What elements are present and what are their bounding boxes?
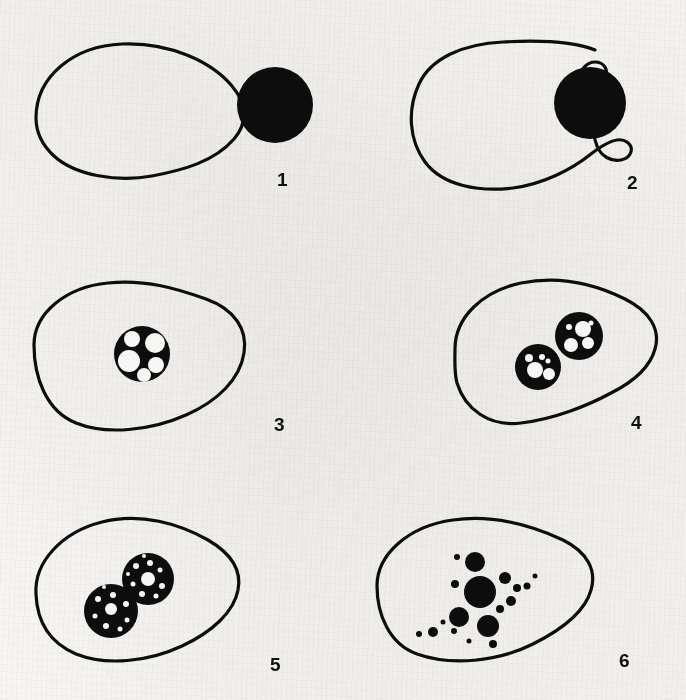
residual-granule [428,627,438,637]
vacuole-vesicle [124,331,140,347]
residual-granule [441,620,446,625]
residual-granule [464,576,496,608]
vacuole-vesicle [147,560,153,566]
vacuole-vesicle [546,359,551,364]
vacuole-vesicle [566,324,572,330]
panel-3-phagosome-formed: 3 [0,233,343,466]
vacuole-body [555,312,603,360]
phagocytosis-stages-figure: 123456 [0,0,686,700]
vacuole-vesicle [95,596,101,602]
vacuole-vesicle [148,357,164,373]
panel-drawing [0,233,343,466]
panel-4-two-phagosomes: 4 [343,233,686,466]
vacuole-vesicle [139,591,145,597]
vacuole-vesicle [564,338,578,352]
vacuole-vesicle [525,354,533,362]
food-vacuole [555,312,603,360]
vacuole-vesicle [589,321,594,326]
panel-drawing [0,0,343,233]
panel-2-pseudopodia-engulfing: 2 [343,0,686,233]
food-vacuole [84,584,138,638]
panel-6-residual-granules: 6 [343,466,686,699]
residual-granule [513,584,521,592]
residual-granule [506,596,516,606]
residual-granule [451,628,457,634]
vacuole-vesicle [539,354,545,360]
residual-granule [524,583,531,590]
vacuole-vesicle [118,627,123,632]
vacuole-vesicle [118,350,140,372]
residual-granule [465,552,485,572]
vacuole-vesicle [123,601,129,607]
panel-1-contact: 1 [0,0,343,233]
vacuole-vesicle [159,583,165,589]
panel-number-label: 2 [627,173,638,192]
residual-granule [496,605,504,613]
cell-membrane-outline [455,280,657,423]
panel-number-label: 3 [274,415,285,434]
panel-number-label: 6 [619,651,630,670]
residual-granule [489,640,497,648]
panel-number-label: 1 [277,170,288,189]
panel-number-label: 4 [631,413,642,432]
vacuole-vesicle [527,362,543,378]
panel-number-label: 5 [270,655,281,674]
residual-granule [454,554,460,560]
residual-granule [477,615,499,637]
vacuole-vesicle [105,603,117,615]
residual-granule [467,639,472,644]
vacuole-vesicle [141,572,155,586]
vacuole-vesicle [126,572,130,576]
residual-granule [499,572,511,584]
vacuole-vesicle [133,563,139,569]
panel-drawing [343,0,686,233]
food-vacuole [515,344,561,390]
vacuole-vesicle [543,368,555,380]
vacuole-vesicle [93,614,98,619]
panel-drawing [0,466,343,699]
ingested-particle [237,67,313,143]
vacuole-vesicle [582,337,594,349]
vacuole-vesicle [145,333,165,353]
panel-grid: 123456 [0,0,686,700]
vacuole-vesicle [102,585,106,589]
vacuole-vesicle [103,623,109,629]
panel-5-digestion-speckled: 5 [0,466,343,699]
vacuole-vesicle [154,594,159,599]
vacuole-vesicle [142,554,146,558]
residual-granule [416,631,422,637]
vacuole-vesicle [137,368,151,382]
vacuole-vesicle [158,568,163,573]
ingested-particle [554,67,626,139]
food-vacuole [114,326,170,382]
vacuole-vesicle [131,582,136,587]
cell-membrane-outline [36,44,244,178]
vacuole-vesicle [125,618,130,623]
residual-granule [533,574,538,579]
residual-granule [451,580,459,588]
residual-granule [449,607,469,627]
vacuole-vesicle [110,592,116,598]
panel-drawing [343,466,686,699]
